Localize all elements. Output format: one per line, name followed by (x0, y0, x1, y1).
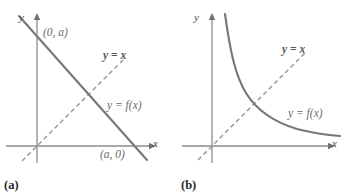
panel-a-plot (0, 0, 176, 170)
function-curve-label-a: y = f(x) (107, 100, 142, 112)
panel-caption-b: (b) (181, 179, 196, 192)
x-axis-label-a: x (153, 138, 158, 149)
identity-line-label-a: y = x (103, 50, 126, 62)
panel-caption-a: (a) (4, 179, 19, 192)
function-curve-a (19, 16, 147, 160)
panel-b-plot (177, 0, 353, 170)
x-intercept-label-a: (a, 0) (100, 149, 125, 161)
y-axis-label-a: y (19, 12, 24, 23)
panel-b: y x y = x y = f(x) (b) (177, 0, 353, 193)
figure-root: y x (0, a) (a, 0) y = x y = f(x) (a) (0, 0, 353, 193)
function-curve-label-b: y = f(x) (288, 108, 323, 120)
panel-a: y x (0, a) (a, 0) y = x y = f(x) (a) (0, 0, 176, 193)
y-intercept-label-a: (0, a) (43, 27, 68, 39)
identity-line-label-b: y = x (282, 44, 305, 56)
y-axis-label-b: y (194, 12, 199, 23)
x-axis-label-b: x (332, 138, 337, 149)
